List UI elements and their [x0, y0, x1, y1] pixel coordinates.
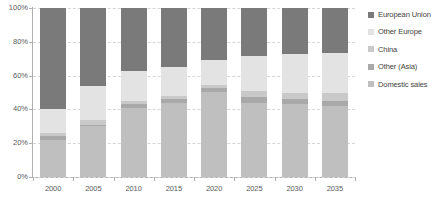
bar-segment	[201, 92, 227, 177]
bar-segment	[80, 126, 106, 177]
bar-2020[interactable]	[201, 8, 227, 177]
bar-segment	[241, 8, 267, 56]
x-tick-mark	[154, 177, 155, 181]
plot-area	[33, 8, 355, 177]
bar-segment	[121, 8, 147, 71]
bar-2010[interactable]	[121, 8, 147, 177]
legend-swatch-icon	[368, 12, 374, 18]
bar-segment	[121, 71, 147, 101]
legend-item-domestic-sales[interactable]: Domestic sales	[368, 76, 441, 93]
bar-segment	[121, 108, 147, 177]
bar-segment	[322, 106, 348, 177]
bar-segment	[80, 8, 106, 86]
legend-label: Other (Asia)	[378, 63, 417, 71]
y-tick-label: 100%	[0, 4, 28, 12]
x-tick-label-2035: 2035	[312, 185, 358, 193]
y-tick-label: 0%	[0, 173, 28, 181]
bar-2000[interactable]	[40, 8, 66, 177]
bar-segment	[161, 8, 187, 67]
bar-segment	[161, 103, 187, 177]
legend-swatch-icon	[368, 64, 374, 70]
legend-item-other-asia[interactable]: Other (Asia)	[368, 58, 441, 75]
y-tick-label: 60%	[0, 72, 28, 80]
legend-label: Other Europe	[378, 28, 422, 36]
x-tick-label-2015: 2015	[151, 185, 197, 193]
bar-segment	[201, 8, 227, 60]
y-tick-label: 80%	[0, 38, 28, 46]
bar-segment	[322, 53, 348, 94]
bar-segment	[282, 54, 308, 94]
x-tick-mark	[355, 177, 356, 181]
bar-segment	[40, 109, 66, 133]
x-tick-label-2025: 2025	[231, 185, 277, 193]
bar-2030[interactable]	[282, 8, 308, 177]
bar-2005[interactable]	[80, 8, 106, 177]
legend-item-european-union[interactable]: European Union	[368, 6, 441, 23]
y-tick-label: 20%	[0, 139, 28, 147]
bar-segment	[201, 60, 227, 85]
y-tick-label: 40%	[0, 105, 28, 113]
bar-segment	[282, 104, 308, 177]
bar-2015[interactable]	[161, 8, 187, 177]
x-tick-mark	[114, 177, 115, 181]
legend-item-china[interactable]: China	[368, 41, 441, 58]
bar-segment	[241, 103, 267, 177]
bar-segment	[40, 8, 66, 109]
stacked-bar-chart: 0%20%40%60%80%100% European UnionOther E…	[0, 0, 441, 199]
x-tick-label-2005: 2005	[70, 185, 116, 193]
legend-swatch-icon	[368, 81, 374, 87]
bar-2035[interactable]	[322, 8, 348, 177]
bar-2025[interactable]	[241, 8, 267, 177]
legend-label: European Union	[378, 11, 431, 19]
legend-swatch-icon	[368, 29, 374, 35]
legend-item-other-europe[interactable]: Other Europe	[368, 23, 441, 40]
x-tick-mark	[275, 177, 276, 181]
y-axis: 0%20%40%60%80%100%	[0, 0, 30, 199]
chart-legend: European UnionOther EuropeChinaOther (As…	[368, 6, 441, 93]
x-tick-mark	[315, 177, 316, 181]
x-tick-label-2020: 2020	[191, 185, 237, 193]
bar-segment	[322, 8, 348, 53]
x-tick-label-2010: 2010	[111, 185, 157, 193]
bar-segment	[161, 67, 187, 96]
bar-segment	[40, 140, 66, 177]
x-tick-label-2030: 2030	[272, 185, 318, 193]
x-tick-label-2000: 2000	[30, 185, 76, 193]
x-tick-mark	[73, 177, 74, 181]
bar-segment	[80, 86, 106, 121]
x-tick-mark	[194, 177, 195, 181]
legend-label: Domestic sales	[378, 81, 427, 89]
x-tick-mark	[234, 177, 235, 181]
bar-segment	[241, 56, 267, 91]
bar-segment	[282, 8, 308, 54]
legend-swatch-icon	[368, 46, 374, 52]
bar-segment	[322, 93, 348, 101]
x-tick-mark	[33, 177, 34, 181]
legend-label: China	[378, 46, 397, 54]
